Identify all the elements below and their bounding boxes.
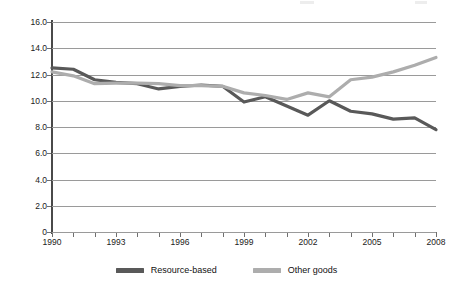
x-axis-tick-label: 2005 xyxy=(352,238,392,247)
x-axis-tick-mark xyxy=(351,233,352,237)
x-axis-tick-label: 1990 xyxy=(32,238,72,247)
legend-item-resource-based[interactable]: Resource-based xyxy=(116,266,217,275)
gridline xyxy=(52,153,436,154)
gridline xyxy=(52,206,436,207)
x-axis-tick-label: 1996 xyxy=(160,238,200,247)
x-axis-tick-mark xyxy=(95,233,96,237)
x-axis-tick-label: 1999 xyxy=(224,238,264,247)
y-axis-tick-label: 16.0 xyxy=(3,18,47,27)
line-chart: 16.014.012.010.08.06.04.02.00 1990199319… xyxy=(0,0,453,296)
y-axis-tick-label: 10.0 xyxy=(3,97,47,106)
x-axis-tick-label: 2008 xyxy=(416,238,453,247)
legend-swatch-icon xyxy=(116,268,144,273)
gridline xyxy=(52,22,436,23)
x-axis-tick-mark xyxy=(329,233,330,237)
legend-swatch-icon xyxy=(253,268,281,273)
x-axis-tick-mark xyxy=(415,233,416,237)
y-axis-tick-label: 2.0 xyxy=(3,202,47,211)
scan-artifact xyxy=(415,1,427,4)
gridline xyxy=(52,75,436,76)
x-axis-tick-label: 2002 xyxy=(288,238,328,247)
scan-artifact xyxy=(300,1,314,4)
y-axis-tick-label: 6.0 xyxy=(3,149,47,158)
legend-label: Resource-based xyxy=(151,266,217,275)
x-axis-tick-mark xyxy=(73,233,74,237)
x-axis-tick-mark xyxy=(393,233,394,237)
gridline xyxy=(52,101,436,102)
x-axis-tick-mark xyxy=(201,233,202,237)
x-axis-tick-mark xyxy=(159,233,160,237)
y-axis-tick-label: 4.0 xyxy=(3,176,47,185)
y-axis: 16.014.012.010.08.06.04.02.00 xyxy=(0,0,47,296)
legend-item-other-goods[interactable]: Other goods xyxy=(253,266,338,275)
x-axis-tick-label: 1993 xyxy=(96,238,136,247)
x-axis-tick-mark xyxy=(223,233,224,237)
y-axis-tick-label: 12.0 xyxy=(3,71,47,80)
gridline xyxy=(52,180,436,181)
chart-legend: Resource-based Other goods xyxy=(0,266,453,275)
y-axis-tick-label: 8.0 xyxy=(3,123,47,132)
gridline xyxy=(52,48,436,49)
y-axis-tick-label: 14.0 xyxy=(3,44,47,53)
x-axis-tick-mark xyxy=(287,233,288,237)
y-axis-tick-label: 0 xyxy=(3,228,47,237)
legend-label: Other goods xyxy=(288,266,338,275)
x-axis-tick-mark xyxy=(137,233,138,237)
x-axis-tick-mark xyxy=(265,233,266,237)
gridline xyxy=(52,127,436,128)
plot-area xyxy=(52,22,436,232)
